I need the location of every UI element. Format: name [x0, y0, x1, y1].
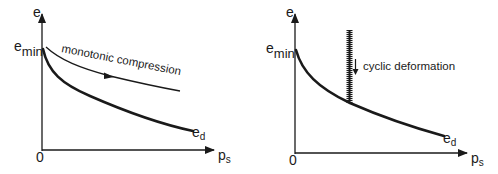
x-axis-label: ps [471, 150, 484, 168]
panel-monotonic: e 0 ps emin ed monotonic compression [14, 4, 231, 165]
e-d-label: ed [443, 130, 456, 148]
origin-label: 0 [289, 152, 297, 168]
diagram-canvas: e 0 ps emin ed monotonic compression e 0… [0, 0, 498, 174]
down-arrowhead-icon [353, 69, 359, 75]
e-d-label: ed [192, 124, 205, 142]
y-axis-label: e [286, 4, 294, 20]
cyclic-deformation-label: cyclic deformation [363, 60, 455, 72]
e-min-label: emin [14, 38, 43, 59]
origin-label: 0 [36, 149, 44, 165]
x-axis-label: ps [218, 147, 231, 165]
e-min-label: emin [266, 40, 295, 61]
monotonic-compression-label: monotonic compression [61, 42, 183, 77]
direction-arrow-icon [104, 73, 114, 80]
y-axis-label: e [33, 4, 41, 20]
compaction-diagram: e 0 ps emin ed monotonic compression e 0… [0, 0, 498, 174]
panel-cyclic: e 0 ps emin ed cyclic deformation [266, 4, 484, 168]
